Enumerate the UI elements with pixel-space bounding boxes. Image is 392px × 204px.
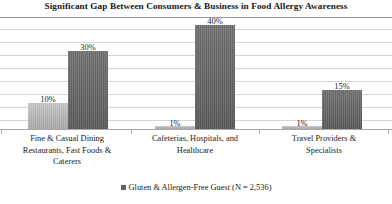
bars-layer (0, 17, 392, 130)
legend-swatch-icon (121, 185, 126, 190)
bar-series-b-group-3[interactable] (322, 90, 362, 129)
bar-series-b-group-1[interactable] (68, 51, 108, 129)
bar-texture (322, 90, 362, 129)
bar-chart: Significant Gap Between Consumers & Busi… (0, 0, 392, 204)
category-label-3-line-1: Travel Providers & (260, 133, 388, 145)
category-label-3-line-2: Specialists (260, 145, 388, 157)
category-label-2-line-1: Cafeterias, Hospitals, and (132, 133, 258, 145)
category-label-1-line-2: Restaurants, Fast Foods & (4, 145, 130, 157)
chart-legend: Gluten & Allergen-Free Guest (N = 2,536) (0, 176, 392, 194)
bar-series-b-group-2[interactable] (195, 25, 235, 129)
bar-texture (68, 51, 108, 129)
plot-area (0, 17, 392, 130)
bar-series-a-group-1[interactable] (28, 103, 68, 129)
category-label-3: Travel Providers & Specialists (260, 133, 388, 156)
category-labels: Fine & Casual Dining Restaurants, Fast F… (0, 133, 392, 175)
data-label-series-a-group-1: 10% (40, 95, 55, 104)
category-label-2: Cafeterias, Hospitals, and Healthcare (132, 133, 258, 156)
legend-item-primary[interactable]: Gluten & Allergen-Free Guest (N = 2,536) (121, 183, 272, 192)
category-axis-line (0, 129, 392, 130)
data-label-series-a-group-3: 1% (296, 119, 307, 128)
chart-title: Significant Gap Between Consumers & Busi… (0, 1, 392, 11)
bar-texture (195, 25, 235, 129)
data-label-series-b-group-2: 40% (207, 17, 222, 26)
data-label-series-a-group-2: 1% (169, 119, 180, 128)
bar-texture (28, 103, 68, 129)
category-tick (388, 130, 389, 134)
category-label-1-line-3: Caterers (4, 156, 130, 168)
data-label-series-b-group-3: 15% (334, 82, 349, 91)
chart-legend-secondary: Foodservice & Hospitality Business (0, 196, 392, 204)
category-label-2-line-2: Healthcare (132, 145, 258, 157)
legend-label-primary: Gluten & Allergen-Free Guest (N = 2,536) (129, 183, 272, 192)
legend-label-secondary: Foodservice & Hospitality Business (140, 203, 261, 204)
category-label-1-line-1: Fine & Casual Dining (4, 133, 130, 145)
data-label-series-b-group-1: 30% (80, 43, 95, 52)
category-tick (1, 130, 2, 134)
category-label-1: Fine & Casual Dining Restaurants, Fast F… (4, 133, 130, 168)
legend-item-secondary[interactable]: Foodservice & Hospitality Business (132, 203, 261, 204)
